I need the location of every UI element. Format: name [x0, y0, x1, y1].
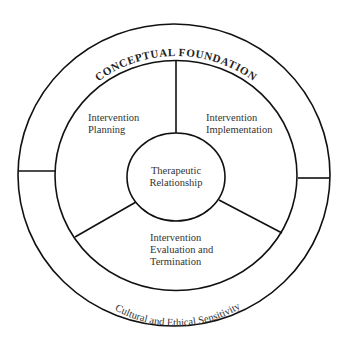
segment-intervention-implementation: Intervention Implementation: [206, 112, 273, 135]
svg-text:Relationship: Relationship: [149, 177, 202, 188]
model-diagram: CONCEPTUAL FOUNDATION Cultural and Ethic…: [0, 0, 347, 339]
cultural-ethical-sensitivity-label: Cultural and Ethical Sensitivity: [114, 300, 243, 328]
center-therapeutic-relationship: Therapeutic Relationship: [149, 165, 202, 188]
svg-text:Therapeutic: Therapeutic: [151, 165, 201, 176]
svg-text:Implementation: Implementation: [206, 124, 273, 135]
svg-text:Intervention: Intervention: [206, 112, 258, 123]
segment-intervention-evaluation: Intervention Evaluation and Termination: [150, 232, 214, 267]
lower-left-spoke: [75, 202, 136, 237]
svg-text:Termination: Termination: [150, 256, 202, 267]
svg-text:Intervention: Intervention: [150, 232, 202, 243]
svg-text:Evaluation and: Evaluation and: [150, 244, 214, 255]
svg-text:Planning: Planning: [88, 124, 126, 135]
svg-text:Intervention: Intervention: [88, 112, 140, 123]
segment-intervention-planning: Intervention Planning: [88, 112, 140, 135]
lower-right-spoke: [219, 200, 282, 233]
